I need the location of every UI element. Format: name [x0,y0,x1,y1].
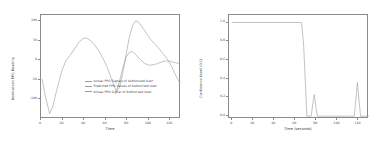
y-tick-mark [226,78,228,79]
y-tick-label: 1.0 [212,19,225,23]
plot-area-confidence [228,14,368,118]
y-tick-label: 0.6 [212,57,225,61]
x-tick-label: 100 [141,121,155,125]
y-tick-label: -50 [24,77,37,81]
y-tick-label: 100 [24,18,37,22]
y-tick-mark [226,96,228,97]
y-tick-mark [226,22,228,23]
x-tick-label: 120 [162,121,176,125]
x-tick-mark [62,118,63,120]
x-tick-label: 20 [55,121,69,125]
y-tick-label: 0 [24,57,37,61]
legend-item: Actual PPG Signals of Authorised User [85,79,157,83]
legend-line-icon [85,91,92,92]
legend-label: Predicted PPG Values of Authorised User [94,84,157,88]
x-tick-mark [40,118,41,120]
line-actual-ppg-signals [42,21,180,114]
x-tick-mark [252,118,253,120]
y-tick-mark [38,20,40,21]
x-tick-mark [294,118,295,120]
x-tick-label: 100 [329,121,343,125]
legend-ppg: Actual PPG Signals of Authorised User Pr… [85,79,157,94]
confidence-series-svg [229,15,369,119]
legend-item: Actual PPG Signal of Authorised User [85,90,157,94]
x-tick-label: 0 [33,121,47,125]
figure-two-panel-ppg: Actual PPG Signals of Authorised User Pr… [0,0,375,147]
legend-label: Actual PPG Signal of Authorised User [94,90,152,94]
x-tick-label: 40 [76,121,90,125]
panel-confidence: 0.00.20.40.60.81.0 020406080100120 Confi… [188,0,375,147]
panel-ppg-signal: Actual PPG Signals of Authorised User Pr… [0,0,187,147]
legend-line-icon [85,86,92,87]
x-tick-mark [336,118,337,120]
x-tick-label: 120 [350,121,364,125]
y-tick-mark [38,40,40,41]
x-tick-label: 0 [224,121,238,125]
x-tick-mark [148,118,149,120]
y-tick-mark [226,59,228,60]
y-tick-mark [38,79,40,80]
y-tick-mark [38,98,40,99]
x-tick-label: 80 [308,121,322,125]
line-confidence-level [232,23,369,117]
legend-label: Actual PPG Signals of Authorised User [94,79,153,83]
x-tick-label: 60 [98,121,112,125]
x-tick-mark [169,118,170,120]
legend-line-icon [85,81,92,82]
x-axis-label-ppg: Time [40,127,180,131]
y-tick-label: 0.4 [212,76,225,80]
y-tick-mark [226,115,228,116]
x-tick-mark [357,118,358,120]
x-tick-label: 20 [245,121,259,125]
x-tick-mark [105,118,106,120]
ppg-series-svg [41,15,181,119]
y-tick-label: 50 [24,38,37,42]
y-tick-mark [226,40,228,41]
x-tick-mark [126,118,127,120]
x-tick-label: 60 [287,121,301,125]
y-tick-label: -100 [24,96,37,100]
y-axis-label-confidence: Confidence Level (0-1) [199,59,203,98]
y-tick-label: 0.2 [212,94,225,98]
x-tick-mark [273,118,274,120]
x-axis-label-confidence: Time (seconds) [228,127,368,131]
x-tick-mark [83,118,84,120]
plot-area-ppg: Actual PPG Signals of Authorised User Pr… [40,14,180,118]
x-tick-mark [231,118,232,120]
y-tick-mark [38,59,40,60]
x-tick-mark [315,118,316,120]
x-tick-label: 40 [266,121,280,125]
y-tick-label: 0.8 [212,38,225,42]
y-tick-label: 0.0 [212,113,225,117]
x-tick-label: 80 [119,121,133,125]
legend-item: Predicted PPG Values of Authorised User [85,84,157,88]
y-axis-label-ppg: Normalised PPG Reading [11,57,15,100]
